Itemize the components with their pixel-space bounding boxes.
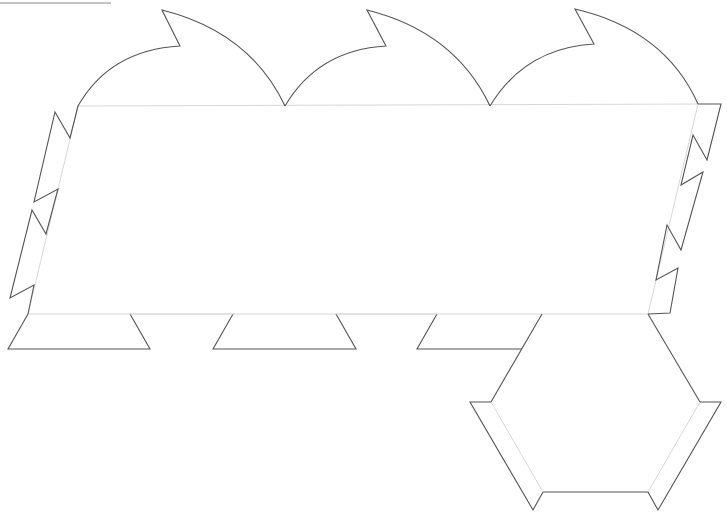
papercraft-net [0, 0, 727, 518]
top-scallop-tabs [78, 9, 698, 106]
main-panel-folds [28, 104, 698, 314]
hexagon-glue-flaps [470, 402, 721, 510]
left-glue-tabs [10, 106, 78, 314]
hexagon-base [491, 314, 700, 492]
bottom-trapezoid-tabs [8, 314, 522, 349]
right-glue-tabs [648, 104, 721, 314]
